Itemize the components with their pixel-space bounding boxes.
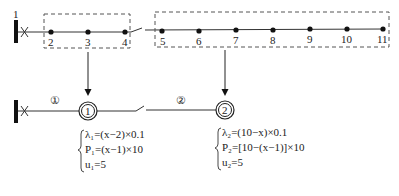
p-1-equation: P₁=(x−1)×10 [85,142,143,156]
node-5 [159,28,164,33]
p-2-equation: P₂=[10−(x−1)]×10 [222,140,304,154]
node-7 [233,27,238,32]
equation-brace-2 [215,128,221,170]
lambda-1-equation: λ₁=(x−2)×0.1 [85,127,145,141]
equiv-source-busbar [14,100,18,123]
node-label-11: 11 [377,33,388,45]
node-label-5: 5 [160,35,166,47]
equiv-node-label-1: 1 [85,105,91,117]
node-2 [48,29,53,34]
equivalent-node-1: 1 [79,102,97,120]
node-10 [344,26,349,31]
node-label-7: 7 [233,34,239,46]
node-label-3: 3 [85,36,91,48]
node-11 [380,26,385,31]
segment-label-2: ② [176,94,186,106]
source-label: 1 [13,8,19,20]
source-busbar [14,20,18,43]
equivalence-arrows [85,50,229,96]
u-2-equation: u₂=5 [222,155,243,169]
node-3 [85,29,90,34]
arrowhead-2-icon [222,89,229,96]
node-8 [270,27,275,32]
node-label-8: 8 [270,34,276,46]
node-label-4: 4 [122,36,128,48]
equiv-switch [136,106,144,111]
node-label-6: 6 [196,35,202,47]
segment-label-1: ① [50,94,60,106]
node-label-2: 2 [48,36,54,48]
node-label-9: 9 [307,33,313,45]
node-4 [122,29,127,34]
equation-brace-1 [78,130,84,172]
node-label-10: 10 [341,33,353,45]
lambda-2-equation: λ₂=(10−x)×0.1 [222,125,287,139]
diagram-canvas: 1 2 3 4 5 [0,0,399,196]
equivalent-node-2: 2 [216,101,234,119]
node-labels: 2 3 4 5 6 7 8 9 10 11 [48,33,388,48]
arrowhead-1-icon [85,89,92,96]
u-1-equation: u₁=5 [85,157,106,171]
node-6 [196,28,201,33]
feeder-nodes [48,26,385,34]
equivalent-feeder: ① ② 1 2 [14,94,234,123]
sectionalizing-switch [131,28,142,32]
node-9 [307,26,312,31]
top-feeder: 1 2 3 4 5 [13,8,389,48]
equiv-node-label-2: 2 [222,104,228,116]
